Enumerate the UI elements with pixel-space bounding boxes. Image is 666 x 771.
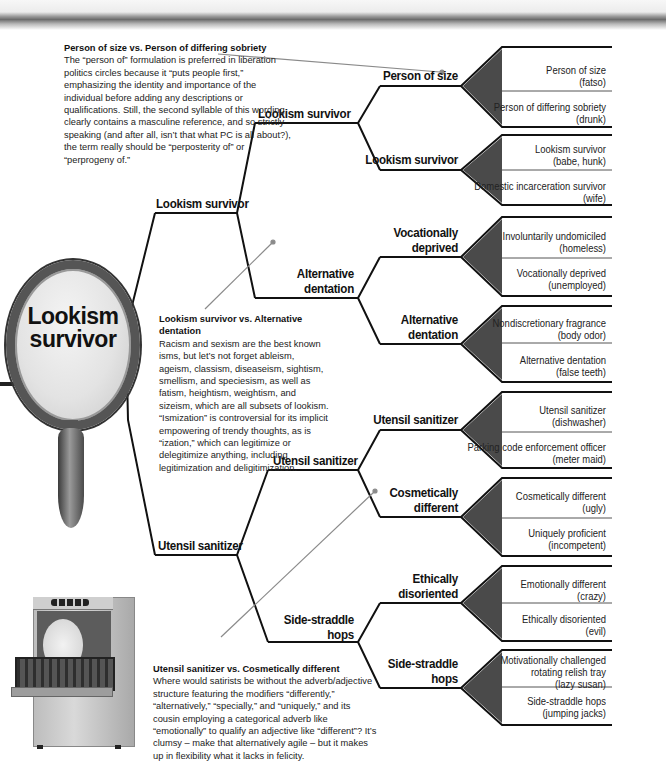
round2-label-lookism-survivor: Lookism survivor — [355, 152, 458, 167]
dishwasher-knobs — [51, 599, 89, 606]
leaf-item: Lookism survivor(babe, hunk) — [462, 143, 606, 167]
leaf-item: Motivationally challengedrotating relish… — [462, 654, 606, 690]
line2: deprived — [355, 240, 458, 255]
leaf-item: Nondiscretionary fragrance(body odor) — [462, 317, 606, 341]
line2: disoriented — [355, 586, 458, 601]
round2-label-cosmetically-different: Cosmetically different — [355, 485, 458, 515]
round4-label-lookism-survivor: Lookism survivor — [156, 196, 259, 211]
leaf-item: Alternative dentation(false teeth) — [462, 354, 606, 378]
note-title: Utensil sanitizer vs. Cosmetically diffe… — [153, 663, 378, 675]
note-body: Racism and sexism are the best known ism… — [159, 339, 328, 473]
line1: Ethically — [355, 571, 458, 586]
leaf-item: Uniquely proficient(incompetent) — [462, 527, 606, 551]
leaf-item: Vocationally deprived(unemployed) — [462, 267, 606, 291]
dishwasher-rack — [15, 657, 115, 691]
leaf-item: Person of differing sobriety(drunk) — [462, 101, 606, 125]
champion-label: Lookism survivor — [14, 305, 132, 351]
note-body: Where would satirists be without the adv… — [153, 676, 376, 760]
line2: dentation — [259, 281, 354, 296]
line1: Alternative — [259, 266, 354, 281]
line2: hops — [259, 627, 354, 642]
leaf-item: Domestic incarceration survivor(wife) — [462, 180, 606, 204]
leaf-item: Side-straddle hops(jumping jacks) — [462, 695, 606, 719]
line2: dentation — [355, 327, 458, 342]
note-title: Person of size vs. Person of differing s… — [64, 42, 292, 54]
line1: Vocationally — [355, 225, 458, 240]
note-body: The “person of” formulation is preferred… — [64, 55, 291, 164]
note-lookism-survivor: Lookism survivor vs. Alternative dentati… — [159, 313, 329, 474]
champion-line1: Lookism — [14, 305, 132, 328]
leaf-item: Parking code enforcement officer(meter m… — [462, 441, 606, 465]
note-utensil-sanitizer: Utensil sanitizer vs. Cosmetically diffe… — [153, 663, 378, 762]
line1: Side-straddle — [259, 612, 354, 627]
dishwasher-door — [11, 687, 113, 697]
round3-label-side-straddle-hops: Side-straddle hops — [259, 612, 354, 642]
line2: different — [355, 500, 458, 515]
note-title: Lookism survivor vs. Alternative dentati… — [159, 313, 329, 338]
leaf-item: Involuntarily undomiciled(homeless) — [462, 230, 606, 254]
round2-label-person-of-size: Person of size — [355, 68, 458, 83]
dishwasher-foot — [115, 745, 121, 749]
line1: Alternative — [355, 312, 458, 327]
note-person-of-size: Person of size vs. Person of differing s… — [64, 42, 292, 166]
round3-label-alternative-dentation: Alternative dentation — [259, 266, 354, 296]
mirror-handle — [58, 428, 84, 528]
dishwasher-foot — [37, 745, 43, 749]
round2-label-alternative-dentation: Alternative dentation — [355, 312, 458, 342]
leaf-item: Utensil sanitizer(dishwasher) — [462, 404, 606, 428]
leaf-item: Cosmetically different(ugly) — [462, 490, 606, 514]
line1: Cosmetically — [355, 485, 458, 500]
round4-label-utensil-sanitizer: Utensil sanitizer — [158, 538, 261, 553]
round2-label-vocationally-deprived: Vocationally deprived — [355, 225, 458, 255]
dishwasher-icon — [5, 597, 137, 747]
leaf-item: Ethically disoriented(evil) — [462, 613, 606, 637]
champion-line2: survivor — [14, 328, 132, 351]
round2-label-ethically-disoriented: Ethically disoriented — [355, 571, 458, 601]
leaf-item: Person of size(fatso) — [462, 64, 606, 88]
round2-label-utensil-sanitizer: Utensil sanitizer — [355, 412, 458, 427]
leaf-item: Emotionally different(crazy) — [462, 578, 606, 602]
